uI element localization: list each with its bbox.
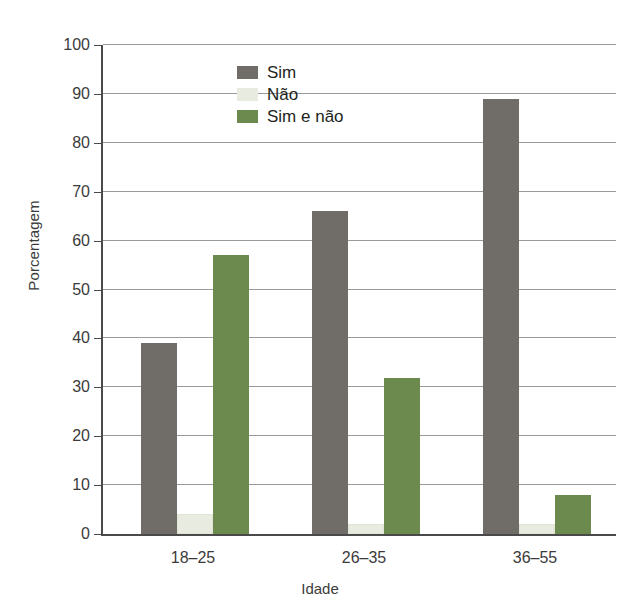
x-tick-label: 36–55 bbox=[455, 549, 615, 567]
y-tick-mark bbox=[94, 534, 101, 535]
y-tick-mark bbox=[94, 94, 101, 95]
bar bbox=[312, 211, 348, 534]
bar-chart: Porcentagem 0102030405060708090100 18–25… bbox=[0, 0, 640, 614]
x-tick-label: 26–35 bbox=[284, 549, 444, 567]
x-tick-label: 18–25 bbox=[113, 549, 273, 567]
legend-item: Sim e não bbox=[237, 105, 344, 127]
y-tick-mark bbox=[94, 192, 101, 193]
bar bbox=[519, 524, 555, 534]
legend-label: Sim bbox=[267, 64, 296, 81]
bar bbox=[141, 343, 177, 534]
y-tick-label: 90 bbox=[20, 86, 90, 102]
y-tick-mark bbox=[94, 143, 101, 144]
bar bbox=[213, 255, 249, 534]
bar bbox=[384, 378, 420, 534]
y-tick-label: 30 bbox=[20, 379, 90, 395]
y-tick-mark bbox=[94, 45, 101, 46]
legend-item: Não bbox=[237, 83, 344, 105]
legend-swatch-icon bbox=[237, 110, 258, 123]
y-tick-label: 50 bbox=[20, 282, 90, 298]
bar bbox=[555, 495, 591, 534]
y-tick-label: 100 bbox=[20, 37, 90, 53]
y-tick-label: 40 bbox=[20, 330, 90, 346]
legend-label: Sim e não bbox=[267, 108, 344, 125]
bar bbox=[483, 99, 519, 534]
legend-swatch-icon bbox=[237, 66, 258, 79]
bars-layer bbox=[103, 45, 616, 534]
y-tick-label: 70 bbox=[20, 184, 90, 200]
y-tick-mark bbox=[94, 338, 101, 339]
y-tick-label: 10 bbox=[20, 477, 90, 493]
y-tick-label: 20 bbox=[20, 428, 90, 444]
legend: SimNãoSim e não bbox=[237, 61, 344, 127]
legend-swatch-icon bbox=[237, 88, 258, 101]
legend-label: Não bbox=[267, 86, 298, 103]
y-tick-mark bbox=[94, 241, 101, 242]
y-tick-mark bbox=[94, 387, 101, 388]
bar-group bbox=[483, 45, 591, 534]
legend-item: Sim bbox=[237, 61, 344, 83]
y-tick-mark bbox=[94, 436, 101, 437]
bar-group bbox=[141, 45, 249, 534]
y-tick-mark bbox=[94, 290, 101, 291]
bar bbox=[348, 524, 384, 534]
y-tick-label: 80 bbox=[20, 135, 90, 151]
y-tick-label: 60 bbox=[20, 233, 90, 249]
y-tick-label: 0 bbox=[20, 526, 90, 542]
plot-area bbox=[101, 45, 616, 536]
y-tick-mark bbox=[94, 485, 101, 486]
bar bbox=[177, 514, 213, 534]
x-axis-title: Idade bbox=[0, 580, 640, 597]
